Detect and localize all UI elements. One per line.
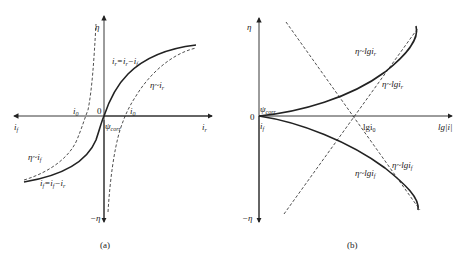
svg-text:if: if (14, 122, 20, 133)
svg-text:i0: i0 (73, 106, 79, 117)
panel-b: η −η 0 ψcorr if lg|i| lgi0 η~lgir η~lgir… (242, 18, 452, 250)
svg-text:0: 0 (250, 112, 255, 122)
svg-text:lg|i|: lg|i| (438, 122, 452, 132)
caption-a: (a) (100, 240, 110, 250)
origin-a: 0 (97, 106, 102, 116)
eta-if-label: η~if (28, 152, 43, 163)
figure: η −η if ir 0 ψcorr i0 i0 ir=ir−if η~ir η… (0, 0, 464, 262)
eta-ir-label: η~ir (150, 80, 165, 91)
caption-b: (b) (347, 240, 358, 250)
net-r-label: ir=ir−if (112, 56, 139, 67)
svg-text:i0: i0 (130, 106, 136, 117)
svg-text:η: η (247, 22, 252, 32)
panel-a: η −η if ir 0 ψcorr i0 i0 ir=ir−if η~ir η… (14, 16, 212, 250)
net-current-curve (24, 45, 196, 182)
svg-text:lgi0: lgi0 (363, 122, 376, 133)
neg-eta-label-a: −η (90, 213, 101, 223)
dash-lgir (284, 28, 418, 214)
upper-solid-label: η~lgir (355, 46, 377, 57)
net-f-label: if=if−ir (40, 178, 66, 189)
svg-text:ψcorr: ψcorr (105, 121, 122, 132)
svg-text:ir: ir (202, 122, 208, 133)
lower-dash-label: η~lgif (392, 160, 414, 171)
svg-text:−η: −η (242, 213, 253, 223)
eta-ir-curve (108, 48, 196, 212)
lower-solid-label: η~lgif (355, 168, 377, 179)
svg-text:ψcorr: ψcorr (260, 104, 277, 115)
upper-dash-label: η~lgir (382, 79, 404, 90)
upper-solid-curve (259, 26, 417, 116)
svg-text:if: if (260, 121, 266, 132)
eta-top-label-a: η (95, 22, 100, 32)
